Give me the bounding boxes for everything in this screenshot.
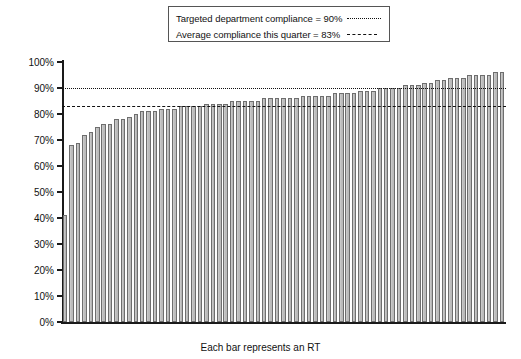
- bar: [166, 109, 170, 322]
- bar: [95, 127, 99, 322]
- bar: [262, 98, 266, 322]
- bar: [140, 111, 144, 322]
- x-axis-line: [61, 322, 506, 324]
- bar: [198, 106, 202, 322]
- legend-label-average: Average compliance this quarter = 83%: [176, 29, 340, 40]
- bar: [223, 104, 227, 322]
- bar: [288, 98, 292, 322]
- bar: [403, 85, 407, 322]
- y-tick-label: 20%: [2, 265, 54, 276]
- bar: [397, 88, 401, 322]
- bar: [371, 91, 375, 322]
- y-axis-labels: 100%90%80%70%60%50%40%30%20%10%0%: [0, 0, 54, 359]
- chart-legend: Targeted department compliance = 90% Ave…: [168, 6, 390, 42]
- y-tick-label: 60%: [2, 161, 54, 172]
- bar: [448, 78, 452, 322]
- bar: [500, 72, 504, 322]
- bar: [307, 96, 311, 322]
- bar: [268, 98, 272, 322]
- bar: [63, 215, 67, 322]
- bar: [435, 80, 439, 322]
- bar: [121, 119, 125, 322]
- bar: [89, 132, 93, 322]
- dotted-line-key-icon: [347, 15, 381, 22]
- bar: [416, 85, 420, 322]
- bar: [230, 101, 234, 322]
- y-tick-label: 100%: [2, 57, 54, 68]
- y-tick-label: 40%: [2, 213, 54, 224]
- y-tick-label: 10%: [2, 291, 54, 302]
- bar: [82, 135, 86, 322]
- reference-line-dotted: [62, 88, 506, 89]
- bar: [352, 93, 356, 322]
- y-tick-label: 0%: [2, 317, 54, 328]
- bar-series: [62, 62, 505, 322]
- bar: [339, 93, 343, 322]
- bar: [101, 124, 105, 322]
- bar: [294, 98, 298, 322]
- y-tick-label: 30%: [2, 239, 54, 250]
- bar: [69, 145, 73, 322]
- bar: [390, 88, 394, 322]
- dashed-line-key-icon: [345, 31, 379, 38]
- y-tick-label: 70%: [2, 135, 54, 146]
- bar: [487, 75, 491, 322]
- bar: [243, 101, 247, 322]
- bar: [493, 72, 497, 322]
- legend-label-target: Targeted department compliance = 90%: [176, 13, 342, 24]
- x-axis-label: Each bar represents an RT: [0, 342, 521, 353]
- bar: [249, 101, 253, 322]
- legend-item-average: Average compliance this quarter = 83%: [176, 26, 383, 42]
- bar: [442, 80, 446, 322]
- bar: [313, 96, 317, 322]
- bar: [326, 96, 330, 322]
- bar: [281, 98, 285, 322]
- bar: [153, 111, 157, 322]
- bar: [236, 101, 240, 322]
- y-tick-label: 80%: [2, 109, 54, 120]
- bar: [108, 124, 112, 322]
- bar: [127, 117, 131, 322]
- bar: [211, 104, 215, 322]
- bar: [410, 85, 414, 322]
- bar: [275, 98, 279, 322]
- bar: [172, 109, 176, 322]
- bar: [345, 93, 349, 322]
- bar: [146, 111, 150, 322]
- bar: [204, 104, 208, 322]
- bar: [333, 93, 337, 322]
- bar: [467, 75, 471, 322]
- bar: [455, 78, 459, 322]
- bar: [301, 96, 305, 322]
- bar: [422, 83, 426, 322]
- bar: [134, 114, 138, 322]
- bar: [114, 119, 118, 322]
- y-tick-label: 90%: [2, 83, 54, 94]
- reference-line-dashed: [62, 106, 506, 107]
- bar: [76, 143, 80, 322]
- bar: [378, 88, 382, 322]
- bar: [384, 88, 388, 322]
- bar: [480, 75, 484, 322]
- bar: [461, 78, 465, 322]
- bar: [191, 106, 195, 322]
- bar: [429, 83, 433, 322]
- bar: [365, 91, 369, 322]
- bar: [185, 106, 189, 322]
- bar: [358, 91, 362, 322]
- bar: [159, 109, 163, 322]
- bar: [256, 101, 260, 322]
- bar: [474, 75, 478, 322]
- legend-item-target: Targeted department compliance = 90%: [176, 10, 383, 26]
- compliance-bar-chart: Targeted department compliance = 90% Ave…: [0, 0, 521, 359]
- y-tick-label: 50%: [2, 187, 54, 198]
- bar: [320, 96, 324, 322]
- bar: [217, 104, 221, 322]
- bar: [179, 106, 183, 322]
